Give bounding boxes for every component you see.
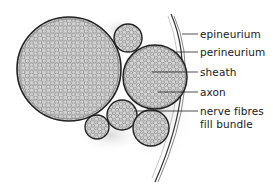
label-axon: axon	[200, 86, 226, 98]
top-small-bundle	[114, 24, 142, 52]
bottom-right-bundle	[133, 110, 169, 146]
large-bundle	[17, 17, 121, 121]
bottom-left-bundle	[85, 115, 109, 139]
right-bundle	[123, 45, 187, 109]
label-perineurium: perineurium	[200, 46, 265, 58]
label-sheath: sheath	[200, 66, 236, 78]
label-nerve-fibres: nerve fibres	[200, 105, 264, 117]
label-epineurium: epineurium	[200, 28, 261, 40]
label-fill-bundle: fill bundle	[200, 118, 253, 130]
